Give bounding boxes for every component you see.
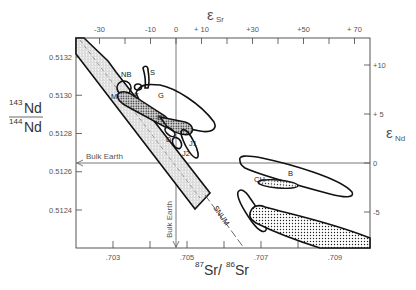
- label-j1: J1: [189, 139, 197, 148]
- label-nb: NB: [121, 70, 131, 79]
- top-tick-label: -30: [94, 25, 105, 34]
- right-tick-label: +10: [373, 61, 386, 70]
- label-s: S: [150, 68, 155, 77]
- epsilon-sr-sub: Sr: [216, 15, 224, 24]
- y-title-nd2: Nd: [24, 119, 42, 135]
- x-tick-label: .705: [180, 253, 195, 262]
- x-axis-title: 87 Sr/ 86 Sr: [195, 260, 249, 278]
- label-d: D: [166, 135, 172, 144]
- x-title-sr1: Sr/: [204, 262, 222, 278]
- right-axis-ticks: +10+ 50-5: [364, 61, 386, 217]
- top-tick-label: + 10: [194, 25, 209, 34]
- top-tick-label: -10: [145, 25, 156, 34]
- snum-label: SNUM: [211, 204, 231, 227]
- right-axis-title: ε Nd: [386, 124, 405, 143]
- bulk-earth-sr-label: Bulk Earth: [165, 201, 174, 238]
- top-tick-label: +50: [297, 25, 310, 34]
- y-axis-ticks: 0.51320.51300.51280.51260.5124: [49, 53, 82, 215]
- y-tick-label: 0.5128: [49, 129, 72, 138]
- field-dotted-band: [250, 206, 370, 248]
- y-tick-label: 0.5124: [49, 206, 72, 215]
- y-axis-title: 143 Nd 144 Nd: [9, 98, 43, 135]
- label-b: B: [288, 169, 293, 178]
- top-axis-title: ε Sr: [207, 6, 224, 24]
- label-m: M: [111, 92, 117, 101]
- bulk-earth-nd-label: Bulk Earth: [86, 152, 123, 161]
- x-tick-label: .709: [328, 253, 343, 262]
- top-tick-label: 0: [174, 25, 178, 34]
- y-tick-label: 0.5126: [49, 167, 72, 176]
- isotope-chart: .703.705.707.709 0.51320.51300.51280.512…: [0, 0, 416, 290]
- top-axis-ticks: -30-100+ 10+30+50+ 70: [94, 25, 362, 44]
- y-title-sup-144: 144: [9, 117, 23, 126]
- right-tick-label: 0: [373, 159, 377, 168]
- x-tick-label: .703: [106, 253, 121, 262]
- epsilon-nd-symbol: ε: [386, 124, 393, 141]
- x-title-sr2: Sr: [235, 262, 249, 278]
- epsilon-sr-symbol: ε: [207, 6, 214, 23]
- label-k: K: [134, 91, 139, 100]
- top-tick-label: +30: [246, 25, 259, 34]
- y-tick-label: 0.5132: [49, 53, 72, 62]
- epsilon-nd-sub: Nd: [395, 134, 405, 143]
- top-tick-label: + 70: [347, 25, 362, 34]
- right-tick-label: -5: [373, 208, 380, 217]
- right-tick-label: + 5: [373, 110, 384, 119]
- y-title-sup-143: 143: [9, 98, 23, 107]
- label-j2: J2: [182, 149, 190, 158]
- y-title-nd1: Nd: [24, 100, 42, 116]
- mantle-array-centerline: [80, 40, 200, 198]
- x-tick-label: .707: [254, 253, 269, 262]
- y-tick-label: 0.5130: [49, 91, 72, 100]
- label-e: E: [157, 113, 162, 122]
- label-g: G: [158, 91, 164, 100]
- label-ch: CH: [254, 175, 265, 184]
